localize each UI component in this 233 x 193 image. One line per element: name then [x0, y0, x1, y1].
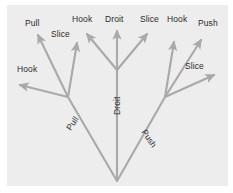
droit-branch-group [87, 31, 147, 70]
trunk-group [68, 70, 165, 181]
label-mid-droit: Droit [113, 97, 122, 115]
trunk-push-line [117, 97, 165, 181]
figure-root: Pull Slice Hook Droit Slice Hook Push Ho… [0, 0, 233, 193]
trunk-pull-line [68, 97, 117, 181]
label-right-slice: Slice [185, 62, 204, 71]
label-top-droit: Droit [105, 15, 123, 24]
hook-left-arrow [20, 85, 68, 97]
diagram-panel: Pull Slice Hook Droit Slice Hook Push Ho… [7, 5, 228, 186]
pull-upleft-arrow [38, 35, 68, 97]
label-top-hook-right: Hook [167, 15, 187, 24]
label-left-hook: Hook [17, 65, 37, 74]
label-top-slice-center-right: Slice [140, 15, 159, 24]
slice-up-arrow [68, 43, 77, 97]
hook-center-left-arrow [87, 34, 117, 70]
slice-center-right-arrow [117, 34, 147, 70]
label-top-pull: Pull [25, 19, 40, 28]
label-top-push: Push [198, 19, 218, 28]
label-top-slice-left: Slice [51, 30, 70, 39]
label-top-hook-center-left: Hook [72, 15, 92, 24]
tree-diagram-svg [7, 5, 228, 186]
